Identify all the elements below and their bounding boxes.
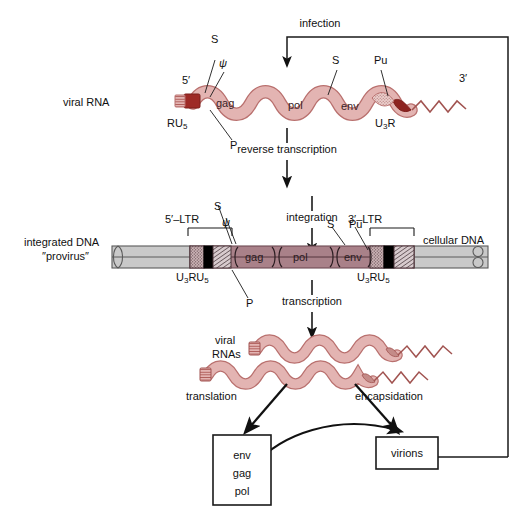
label-reverse-transcription: reverse transcription	[233, 143, 341, 155]
label-rna-site-psi: ψ	[219, 57, 227, 69]
row-label-integrated-dna: integrated DNA	[24, 236, 99, 248]
label-rna-site-s-left: S	[211, 33, 218, 45]
label-dna-gene-gag: gag	[245, 251, 263, 263]
label-dna-site-pu: Pu	[349, 218, 362, 230]
label-dna-site-s-left: S	[214, 200, 221, 212]
label-viral-rnas-line1: viral	[215, 334, 235, 346]
label-dna-site-p: P	[246, 297, 253, 309]
label-infection: infection	[300, 17, 341, 29]
label-dna-site-s-right: S	[327, 218, 334, 230]
label-dna-gene-env: env	[344, 251, 362, 263]
label-five-prime: 5′	[182, 74, 190, 86]
label-rna-site-s-right: S	[332, 54, 339, 66]
label-rna-u3r: U3R	[375, 117, 395, 133]
label-rna-gene-gag: gag	[216, 97, 234, 109]
products-box-item-gag: gag	[213, 466, 271, 481]
diagram-canvas: infection reverse transcription integrat…	[0, 0, 529, 523]
label-dna-ltr-left-u3ru5: U3RU5	[176, 271, 209, 287]
products-box-item-pol: pol	[213, 484, 271, 499]
label-rna-site-pu: Pu	[374, 54, 387, 66]
translation-arrow	[249, 384, 287, 428]
label-rna-gene-pol: pol	[288, 99, 303, 111]
virions-box-label: virions	[376, 446, 438, 461]
viral-rnas-strands	[200, 340, 452, 384]
label-viral-rnas-line2: RNAs	[212, 348, 241, 360]
label-five-prime-ltr: 5′–LTR	[165, 213, 199, 225]
label-encapsidation: encapsidation	[355, 390, 423, 402]
label-dna-gene-pol: pol	[293, 251, 308, 263]
label-translation: translation	[186, 390, 237, 402]
label-rna-site-p: P	[230, 139, 237, 151]
label-transcription: transcription	[278, 295, 346, 307]
label-dna-ltr-right-u3ru5: U3RU5	[357, 271, 390, 287]
label-three-prime: 3′	[459, 72, 467, 84]
row-label-provirus: ″provirus″	[42, 250, 89, 262]
label-dna-site-psi: ψ	[222, 216, 230, 228]
row-label-viral-rna: viral RNA	[63, 96, 109, 108]
label-cellular-dna: cellular DNA	[423, 234, 484, 246]
label-rna-ru5: RU5	[167, 117, 187, 133]
products-box-item-env: env	[213, 448, 271, 463]
label-rna-gene-env: env	[341, 100, 359, 112]
